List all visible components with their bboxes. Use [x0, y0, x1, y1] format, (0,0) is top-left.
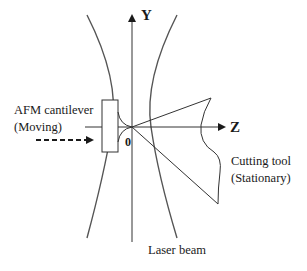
z-axis-label: Z	[230, 120, 240, 135]
tool-label-line1: Cutting tool	[231, 155, 291, 168]
tool-label-line2: (Stationary)	[231, 172, 291, 185]
afm-laser-diagram	[0, 0, 307, 271]
laser-beam-label: Laser beam	[148, 244, 206, 257]
origin-label: 0	[125, 136, 131, 148]
y-axis-label: Y	[141, 8, 152, 23]
cantilever-label-line2: (Moving)	[14, 121, 62, 134]
cutting-tool	[132, 98, 220, 204]
afm-cantilever	[102, 100, 118, 152]
cantilever-label-line1: AFM cantilever	[14, 104, 94, 117]
